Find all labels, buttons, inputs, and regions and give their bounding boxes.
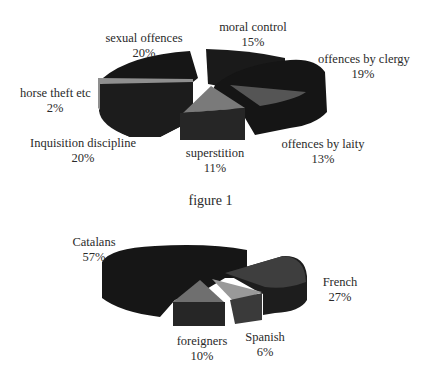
- label-foreigners: foreigners 10%: [172, 334, 232, 364]
- label-spanish: Spanish 6%: [240, 330, 290, 360]
- label-offences-by-laity: offences by laity 13%: [278, 137, 368, 167]
- figure-caption: figure 1: [0, 193, 421, 209]
- label-catalans: Catalans 57%: [64, 235, 124, 265]
- label-superstition: superstition 11%: [180, 146, 250, 176]
- pie-chart-2: [102, 245, 307, 326]
- slice-foreigners-side: [173, 302, 225, 326]
- label-horse-theft: horse theft etc 2%: [20, 86, 90, 116]
- label-french: French 27%: [315, 275, 365, 305]
- pie-chart-1: [98, 49, 327, 140]
- label-inquisition-discipline: Inquisition discipline 20%: [28, 136, 138, 166]
- label-sexual-offences: sexual offences 20%: [94, 31, 194, 61]
- label-offences-by-clergy: offences by clergy 19%: [318, 52, 408, 82]
- slice-superstition-side: [180, 108, 245, 140]
- slice-inquisition-discipline: [99, 82, 193, 137]
- label-moral-control: moral control 15%: [208, 20, 298, 50]
